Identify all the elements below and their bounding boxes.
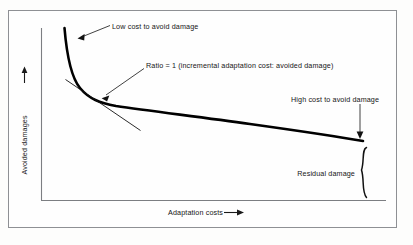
- ratio-leader-line: [106, 69, 144, 96]
- low-cost-annotation: Low cost to avoid damage: [78, 22, 199, 41]
- x-axis-title: Adaptation costs: [168, 208, 223, 217]
- x-axis-title-group: Adaptation costs: [168, 208, 244, 217]
- y-axis-title: Avoided damages: [20, 115, 29, 174]
- low-cost-leader-line: [82, 26, 111, 38]
- data-curve-group: [65, 28, 364, 141]
- y-axis-title-group: Avoided damages: [20, 67, 29, 175]
- ratio-arrowhead-icon: [102, 96, 110, 102]
- low-cost-label: Low cost to avoid damage: [112, 22, 198, 31]
- low-cost-arrowhead-icon: [78, 34, 85, 41]
- x-axis-arrow-head-icon: [237, 210, 244, 216]
- avoided-damages-curve: [65, 28, 364, 141]
- residual-damage-annotation: Residual damage: [297, 148, 366, 198]
- figure-root: Low cost to avoid damage Ratio = 1 (incr…: [0, 0, 413, 245]
- ratio-label: Ratio = 1 (incremental adaptation cost: …: [146, 61, 333, 70]
- tangent-line-group: [66, 80, 141, 131]
- ratio-tangent-line: [66, 80, 141, 131]
- y-axis-arrow-head-icon: [22, 67, 28, 74]
- residual-damage-brace-icon: [362, 148, 367, 198]
- residual-damage-label: Residual damage: [297, 169, 355, 178]
- high-cost-label: High cost to avoid damage: [291, 95, 379, 104]
- chart-canvas: Low cost to avoid damage Ratio = 1 (incr…: [0, 0, 413, 245]
- high-cost-arrowhead-icon: [357, 132, 364, 139]
